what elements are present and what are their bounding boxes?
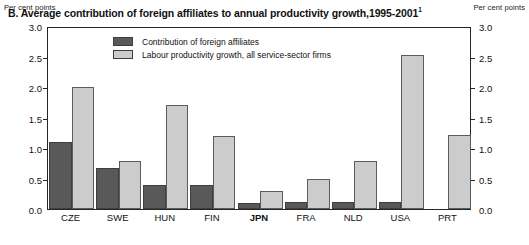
x-axis-label-cze: CZE bbox=[47, 212, 94, 223]
bar-usa-series2 bbox=[401, 55, 424, 209]
bar-fin-series1 bbox=[190, 185, 213, 209]
y-axis-tick-mark-right bbox=[471, 149, 475, 150]
x-axis-label-nld: NLD bbox=[330, 212, 377, 223]
bar-usa-series1 bbox=[379, 202, 402, 209]
bar-fra-series2 bbox=[307, 179, 330, 210]
legend-item-label: Labour productivity growth, all service-… bbox=[142, 50, 331, 60]
y-axis-tick-label-left: 3.0 bbox=[16, 22, 42, 33]
x-axis-label-usa: USA bbox=[377, 212, 424, 223]
x-axis-category-labels: CZESWEHUNFINJPNFRANLDUSAPRT bbox=[47, 212, 471, 232]
x-axis-label-fin: FIN bbox=[188, 212, 235, 223]
bar-jpn-series1 bbox=[238, 203, 261, 209]
chart-legend: Contribution of foreign affiliatesLabour… bbox=[113, 36, 331, 62]
bar-jpn-series2 bbox=[260, 191, 283, 209]
y-axis-tick-label-left: 2.5 bbox=[16, 52, 42, 63]
bar-cze-series1 bbox=[49, 142, 72, 209]
y-axis-tick-label-left: 2.0 bbox=[16, 83, 42, 94]
title-footnote-marker: 1 bbox=[418, 6, 422, 13]
x-axis-label-fra: FRA bbox=[283, 212, 330, 223]
legend-swatch-icon bbox=[113, 37, 133, 46]
y-axis-tick-label-left: 0.5 bbox=[16, 174, 42, 185]
y-axis-tick-label-right: 1.0 bbox=[479, 144, 505, 155]
bar-hun-series1 bbox=[143, 185, 166, 209]
y-axis-tick-label-right: 1.5 bbox=[479, 113, 505, 124]
y-axis-tick-label-right: 0.5 bbox=[479, 174, 505, 185]
bar-swe-series2 bbox=[119, 161, 142, 209]
chart-title: B. Average contribution of foreign affil… bbox=[8, 6, 422, 19]
bar-cze-series2 bbox=[72, 87, 95, 209]
y-axis-tick-label-right: 2.0 bbox=[479, 83, 505, 94]
y-axis-tick-label-right: 0.0 bbox=[479, 205, 505, 216]
y-axis-tick-mark-right bbox=[471, 58, 475, 59]
y-axis-tick-label-right: 3.0 bbox=[479, 22, 505, 33]
bar-nld-series2 bbox=[354, 161, 377, 209]
y-axis-tick-mark-right bbox=[471, 88, 475, 89]
bar-fra-series1 bbox=[285, 202, 308, 209]
bar-prt-series2 bbox=[448, 135, 471, 209]
chart-figure: Per cent points Per cent points 3.03.02.… bbox=[0, 0, 529, 245]
x-axis-label-swe: SWE bbox=[94, 212, 141, 223]
legend-item: Labour productivity growth, all service-… bbox=[113, 49, 331, 60]
bar-nld-series1 bbox=[332, 202, 355, 209]
x-axis-label-jpn: JPN bbox=[235, 212, 282, 223]
x-axis-label-prt: PRT bbox=[424, 212, 471, 223]
y-axis-tick-mark-right bbox=[471, 119, 475, 120]
x-axis-label-hun: HUN bbox=[141, 212, 188, 223]
y-axis-tick-label-left: 0.0 bbox=[16, 205, 42, 216]
bar-hun-series2 bbox=[166, 105, 189, 209]
y-axis-tick-mark-right bbox=[471, 180, 475, 181]
legend-item: Contribution of foreign affiliates bbox=[113, 36, 331, 47]
y-axis-tick-label-right: 2.5 bbox=[479, 52, 505, 63]
y-axis-unit-caption-right: Per cent points bbox=[473, 3, 525, 12]
y-axis-tick-label-left: 1.0 bbox=[16, 144, 42, 155]
y-axis-tick-label-left: 1.5 bbox=[16, 113, 42, 124]
legend-swatch-icon bbox=[113, 50, 133, 59]
legend-item-label: Contribution of foreign affiliates bbox=[142, 37, 259, 47]
bar-swe-series1 bbox=[96, 168, 119, 209]
bar-fin-series2 bbox=[213, 136, 236, 209]
